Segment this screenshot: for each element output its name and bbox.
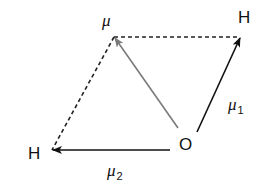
hydrogen-right-label: H (238, 9, 250, 26)
oxygen-label: O (179, 136, 192, 153)
mu2-symbol: μ (107, 161, 116, 180)
mu1-symbol: μ (228, 95, 237, 114)
mu1-arrow (197, 38, 240, 132)
dashed-line-left (52, 37, 114, 150)
resultant-dipole-label: μ (102, 12, 111, 29)
dipole-diagram: O H H μ μ1 μ2 (0, 0, 273, 191)
mu2-label: μ2 (107, 162, 123, 179)
resultant-dipole-arrow (115, 38, 178, 128)
mu2-subscript: 2 (117, 170, 123, 182)
mu1-label: μ1 (228, 96, 244, 113)
mu1-subscript: 1 (238, 104, 244, 116)
resultant-mu-symbol: μ (102, 11, 111, 30)
hydrogen-left-label: H (28, 145, 40, 162)
